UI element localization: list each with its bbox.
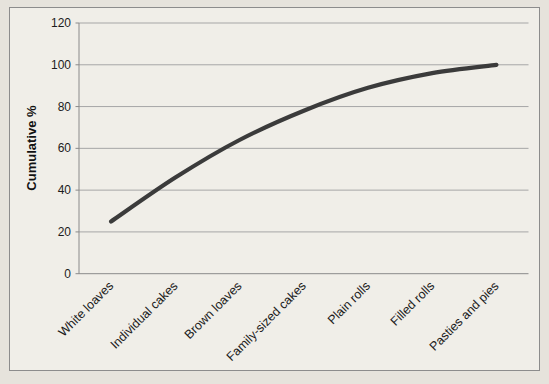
y-tick-label: 40	[58, 183, 72, 197]
y-tick-label: 100	[51, 58, 71, 72]
x-category-label: White loaves	[56, 279, 117, 340]
x-category-label: Individual cakes	[108, 279, 181, 352]
y-tick-label: 60	[58, 141, 72, 155]
x-category-label: Filled rolls	[388, 279, 438, 329]
y-tick-label: 80	[58, 100, 72, 114]
scanned-page: Cumulative % 020406080100120White loaves…	[0, 0, 549, 384]
x-category-label: Plain rolls	[325, 279, 373, 327]
pareto-chart-frame: Cumulative % 020406080100120White loaves…	[9, 7, 540, 371]
cumulative-line	[111, 65, 496, 222]
y-tick-label: 120	[51, 16, 71, 30]
cumulative-percent-chart: Cumulative % 020406080100120White loaves…	[10, 8, 539, 370]
y-axis-title: Cumulative %	[24, 105, 39, 191]
x-category-label: Pasties and pies	[427, 279, 502, 354]
y-tick-label: 0	[64, 267, 71, 281]
x-category-label: Brown loaves	[182, 279, 245, 342]
y-tick-label: 20	[58, 225, 72, 239]
